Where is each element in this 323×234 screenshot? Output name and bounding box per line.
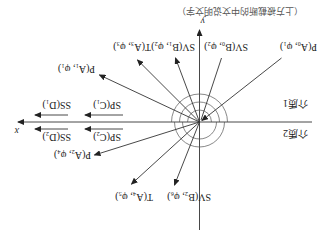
medium2-label: 介质2 bbox=[283, 128, 308, 139]
surface-wave-ss-d2: SS(D₂) bbox=[35, 129, 71, 143]
ray-label-t-a4: T(A₄, φ₅) bbox=[115, 191, 153, 203]
wave-label-sp-c1: SP(C₁) bbox=[93, 99, 121, 111]
ray-t-a4: T(A₄, φ₅) bbox=[115, 122, 199, 203]
wave-diagram: （上方被截断的中文说明文字） x y 介质1 介质2 P(A₀, φ₁) bbox=[0, 0, 323, 234]
medium1-label: 介质1 bbox=[283, 98, 308, 109]
ray-sv-b2: SV(B₂, φ₆) bbox=[167, 122, 211, 203]
y-axis-label: y bbox=[200, 16, 206, 27]
ray-label-sv-b0: SV(B₀, φ₂) bbox=[204, 41, 248, 53]
ray-p-a1: P(A₁, φ₁) bbox=[58, 63, 200, 122]
ray-label-t-a3: T(A₃, φ₃) bbox=[113, 41, 151, 53]
ray-label-sv-b1: SV(B₁, φ₂) bbox=[151, 41, 195, 53]
x-axis-label: x bbox=[14, 126, 20, 137]
wave-label-ss-d2: SS(D₂) bbox=[43, 131, 72, 143]
surface-wave-sp-c2: SP(C₂) bbox=[85, 129, 123, 143]
header-text: （上方被截断的中文说明文字） bbox=[177, 6, 303, 17]
surface-wave-ss-d1: SS(D₁) bbox=[35, 99, 71, 115]
ray-label-p-a2: P(A₂, φ₄) bbox=[54, 149, 91, 161]
ray-label-p-a0: P(A₀, φ₁) bbox=[280, 41, 317, 53]
wave-label-ss-d1: SS(D₁) bbox=[43, 99, 72, 111]
wave-label-sp-c2: SP(C₂) bbox=[93, 131, 121, 143]
surface-wave-sp-c1: SP(C₁) bbox=[85, 99, 123, 115]
ray-label-p-a1: P(A₁, φ₁) bbox=[58, 63, 95, 75]
ray-label-sv-b2: SV(B₂, φ₆) bbox=[167, 191, 211, 203]
ray-sv-b0: SV(B₀, φ₂) bbox=[201, 41, 248, 120]
